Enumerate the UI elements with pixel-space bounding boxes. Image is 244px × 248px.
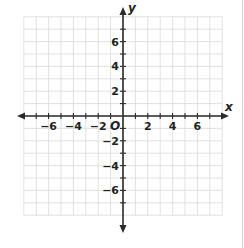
origin-label: O (110, 119, 120, 133)
x-tick-label: −6 (40, 120, 57, 133)
x-tick-label: −2 (90, 120, 107, 133)
page-edge-divider (242, 0, 243, 248)
y-tick-label: 2 (111, 85, 119, 98)
y-tick-label: −4 (102, 160, 119, 173)
x-axis-label: x (224, 100, 234, 114)
x-tick-label: 4 (169, 120, 177, 133)
arrow-up-icon (120, 7, 127, 15)
arrow-left-icon (17, 113, 25, 120)
y-tick-label: −6 (102, 184, 119, 197)
x-tick-label: −4 (65, 120, 82, 133)
y-axis-label: y (128, 1, 137, 15)
y-tick-label: −2 (102, 135, 119, 148)
x-tick-label: 2 (144, 120, 152, 133)
arrow-down-icon (120, 225, 127, 233)
y-tick-label: 6 (111, 36, 119, 49)
y-tick-label: 4 (111, 60, 119, 73)
coordinate-plane: −6−4−2246−6−4−2246 x y O (0, 0, 244, 248)
x-tick-label: 6 (194, 120, 202, 133)
